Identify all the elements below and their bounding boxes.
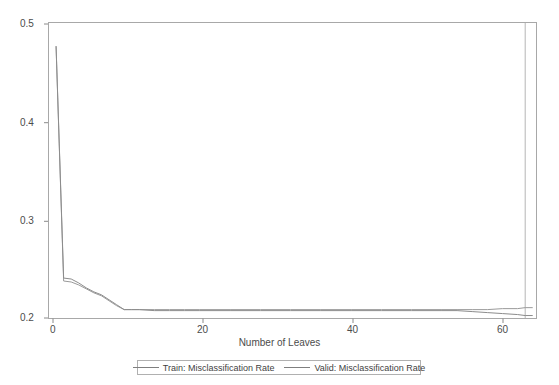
x-tick-label-0: 0 [50, 324, 56, 335]
y-axis-ticks [44, 24, 48, 318]
legend-label-train: Train: Misclassification Rate [163, 363, 275, 373]
x-tick-label-2: 40 [347, 324, 358, 335]
y-tick-label-1: 0.4 [20, 117, 34, 128]
x-axis-ticks [53, 319, 503, 324]
x-tick-label-1: 20 [197, 324, 208, 335]
plot-canvas [0, 0, 559, 385]
y-tick-label-2: 0.3 [20, 215, 34, 226]
y-tick-label-3: 0.2 [20, 312, 34, 323]
legend-entry-train: Train: Misclassification Rate [133, 363, 275, 373]
plot-frame [49, 23, 537, 319]
misclassification-rate-chart: 0.5 0.4 0.3 0.2 0 20 40 60 Number of Lea… [0, 0, 559, 385]
chart-legend: Train: Misclassification Rate Valid: Mis… [137, 360, 421, 375]
x-axis-title: Number of Leaves [0, 337, 559, 348]
legend-label-valid: Valid: Misclassification Rate [314, 363, 425, 373]
x-tick-label-3: 60 [497, 324, 508, 335]
legend-swatch-valid-icon [284, 367, 310, 368]
y-tick-label-0: 0.5 [20, 18, 34, 29]
legend-swatch-train-icon [133, 367, 159, 368]
legend-entry-valid: Valid: Misclassification Rate [284, 363, 425, 373]
